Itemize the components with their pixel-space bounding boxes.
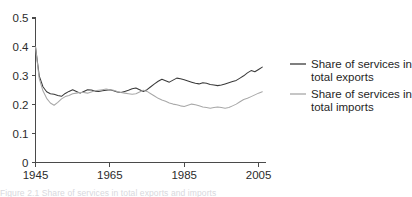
x-tick-label: 1965 [97, 169, 123, 181]
y-tick-label: 0.5 [13, 12, 29, 24]
legend-label-line1: Share of services in [311, 58, 412, 70]
x-tick-label: 1945 [23, 169, 49, 181]
y-tick-label: 0.1 [13, 128, 29, 140]
y-tick-label: 0.2 [13, 99, 29, 111]
chart-legend: Share of services intotal exportsShare o… [290, 58, 412, 113]
x-axis-ticks: 1945196519852005 [23, 163, 272, 181]
x-tick-label: 1985 [171, 169, 197, 181]
legend-label-line1: Share of services in [311, 88, 412, 100]
chart-axes [36, 18, 267, 163]
figure-caption: Figure 2.1 Share of services in total ex… [0, 188, 412, 197]
y-tick-label: 0 [22, 157, 28, 169]
legend-label-line2: total exports [311, 71, 374, 83]
x-tick-label: 2005 [246, 169, 272, 181]
series-line-exports [36, 47, 263, 96]
series-line-imports [36, 47, 263, 108]
data-series-group [36, 47, 263, 108]
y-axis-ticks: 00.10.20.30.40.5 [13, 12, 36, 169]
y-tick-label: 0.3 [13, 70, 29, 82]
y-tick-label: 0.4 [13, 41, 30, 53]
figure-container: 00.10.20.30.40.5 1945196519852005 Share … [0, 0, 412, 197]
legend-label-line2: total imports [311, 101, 374, 113]
line-chart: 00.10.20.30.40.5 1945196519852005 Share … [0, 0, 412, 197]
